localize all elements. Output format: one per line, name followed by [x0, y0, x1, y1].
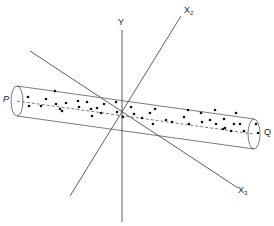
data-point: [54, 90, 57, 93]
x3-label-sub: 3: [244, 190, 247, 196]
end-label-q: Q: [264, 128, 271, 137]
axes: [30, 16, 238, 222]
data-point: [40, 105, 43, 108]
data-point: [171, 121, 174, 124]
cylinder-axis-pq: [17, 101, 254, 134]
data-point: [214, 109, 217, 112]
data-point: [55, 103, 58, 106]
data-point: [90, 108, 93, 111]
data-point: [59, 108, 62, 111]
data-point: [230, 130, 233, 133]
x2-axis-label: X2: [184, 6, 193, 16]
data-point: [27, 96, 30, 99]
data-point: [133, 113, 136, 116]
y-axis-label-text: Y: [118, 17, 124, 27]
data-points: [27, 90, 260, 135]
data-point: [28, 105, 31, 108]
axis-x2: [70, 16, 181, 196]
data-point: [165, 119, 168, 122]
data-point: [257, 132, 260, 135]
data-point: [115, 101, 118, 104]
x2-label-sub: 2: [190, 10, 193, 16]
data-point: [78, 106, 81, 109]
data-point: [235, 112, 238, 115]
data-point: [122, 116, 125, 119]
data-point: [209, 119, 212, 122]
end-label-p: P: [3, 95, 9, 104]
data-point: [215, 123, 218, 126]
data-point: [100, 112, 103, 115]
data-point: [255, 123, 258, 126]
data-point: [86, 101, 89, 104]
data-point: [223, 118, 226, 121]
q-text: Q: [264, 127, 271, 137]
data-point: [154, 108, 157, 111]
data-point: [45, 98, 48, 101]
data-point: [188, 123, 191, 126]
data-point: [233, 123, 236, 126]
data-point: [103, 103, 106, 106]
data-point: [222, 128, 225, 131]
data-point: [65, 102, 68, 105]
data-point: [141, 117, 144, 120]
data-point: [201, 121, 204, 124]
x3-axis-label: X3: [238, 186, 247, 196]
pca-cylinder-diagram: [0, 0, 274, 226]
data-point: [183, 116, 186, 119]
data-point: [239, 123, 242, 126]
p-text: P: [3, 94, 9, 104]
data-point: [152, 123, 155, 126]
data-point: [116, 111, 119, 114]
data-point: [91, 115, 94, 118]
data-point: [149, 112, 152, 115]
data-point: [77, 100, 80, 103]
data-point: [96, 107, 99, 110]
data-point: [61, 110, 64, 113]
cylinder: [11, 86, 260, 149]
data-point: [187, 109, 190, 112]
data-point: [243, 130, 246, 133]
cylinder-top-edge: [17, 86, 254, 119]
data-point: [130, 106, 133, 109]
data-point: [200, 112, 203, 115]
axis-x3: [30, 51, 238, 188]
y-axis-label: Y: [118, 18, 124, 27]
